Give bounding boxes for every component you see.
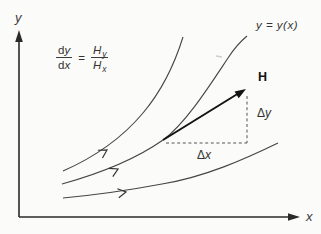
slope-equation: dy dx = Hy Hx [56,44,108,71]
lhs-denominator-var: x [64,59,70,71]
y-axis-label: y [15,11,22,24]
delta-y-var: y [265,106,271,120]
diagram-canvas [0,0,321,234]
delta-y-symbol: Δ [257,106,265,120]
field-line-lower [63,143,278,198]
rhs-denominator-subscript: x [102,64,106,74]
field-line-slope-diagram: y x dy dx = Hy Hx y = y(x) H Δy Δx [0,0,321,234]
delta-x-symbol: Δ [197,148,205,162]
delta-y-label: Δy [257,107,271,119]
lhs-numerator: dy [56,44,72,57]
lhs-fraction: dy dx [56,44,72,71]
scan-smudge [216,56,222,57]
rhs-numerator-subscript: y [102,49,106,59]
vector-H [163,86,248,140]
lhs-denominator: dx [56,57,72,71]
curve-equation-label: y = y(x) [256,20,298,32]
x-axis [19,213,300,221]
dashed-triangle [166,96,247,143]
rhs-numerator-base: H [93,44,101,56]
rhs-numerator: Hy [91,44,109,57]
rhs-denominator: Hx [91,57,109,71]
lhs-numerator-var: y [64,44,70,56]
x-axis-arrowhead-icon [288,213,300,221]
y-axis-arrowhead-icon [15,30,23,42]
vector-H-arrowhead-icon [235,86,249,99]
x-axis-label: x [306,210,313,223]
delta-x-label: Δx [197,149,211,161]
flow-arrowhead-upper-icon [98,146,109,158]
vector-H-label: H [258,71,267,84]
flow-arrowhead-lower-icon [117,188,126,198]
equals-sign: = [77,52,86,64]
y-axis [15,30,23,217]
rhs-denominator-base: H [93,59,101,71]
rhs-fraction: Hy Hx [91,44,109,71]
delta-x-var: x [205,148,211,162]
